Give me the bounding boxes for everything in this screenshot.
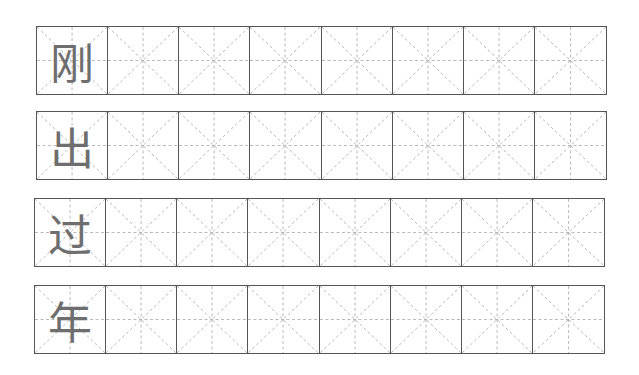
practice-cell	[464, 112, 535, 179]
model-character: 过	[35, 199, 105, 266]
practice-row: 年	[34, 285, 605, 354]
mi-grid-guides	[533, 286, 604, 353]
practice-cell	[391, 199, 462, 266]
practice-row: 刚	[36, 26, 607, 95]
mi-grid-guides	[108, 27, 178, 94]
mi-grid-guides	[535, 112, 606, 179]
practice-cell	[533, 286, 604, 353]
practice-cell	[535, 112, 606, 179]
mi-grid-guides	[179, 27, 249, 94]
model-character: 出	[37, 112, 107, 179]
model-character-cell: 刚	[37, 27, 108, 94]
practice-row: 出	[36, 111, 607, 180]
practice-cell	[464, 27, 535, 94]
practice-cell	[177, 286, 248, 353]
mi-grid-guides	[248, 199, 318, 266]
mi-grid-guides	[322, 27, 392, 94]
practice-cell	[320, 199, 391, 266]
mi-grid-guides	[106, 286, 176, 353]
practice-cell	[108, 112, 179, 179]
mi-grid-guides	[248, 286, 318, 353]
mi-grid-guides	[320, 286, 390, 353]
practice-cell	[462, 199, 533, 266]
practice-cell	[179, 27, 250, 94]
practice-cell	[322, 112, 393, 179]
mi-grid-guides	[464, 112, 534, 179]
practice-cell	[393, 112, 464, 179]
practice-cell	[250, 112, 321, 179]
mi-grid-guides	[322, 112, 392, 179]
mi-grid-guides	[179, 112, 249, 179]
mi-grid-guides	[462, 199, 532, 266]
mi-grid-guides	[320, 199, 390, 266]
practice-cell	[106, 286, 177, 353]
practice-cell	[535, 27, 606, 94]
mi-grid-guides	[393, 27, 463, 94]
model-character-cell: 过	[35, 199, 106, 266]
mi-grid-guides	[535, 27, 606, 94]
mi-grid-guides	[108, 112, 178, 179]
practice-cell	[462, 286, 533, 353]
practice-cell	[179, 112, 250, 179]
practice-cell	[248, 199, 319, 266]
practice-cell	[177, 199, 248, 266]
model-character: 年	[35, 286, 105, 353]
practice-cell	[391, 286, 462, 353]
mi-grid-guides	[393, 112, 463, 179]
mi-grid-guides	[250, 112, 320, 179]
practice-row: 过	[34, 198, 605, 267]
mi-grid-guides	[391, 286, 461, 353]
practice-cell	[248, 286, 319, 353]
mi-grid-guides	[462, 286, 532, 353]
practice-cell	[393, 27, 464, 94]
mi-grid-guides	[391, 199, 461, 266]
practice-cell	[320, 286, 391, 353]
practice-cell	[108, 27, 179, 94]
model-character-cell: 年	[35, 286, 106, 353]
mi-grid-guides	[250, 27, 320, 94]
practice-cell	[106, 199, 177, 266]
mi-grid-guides	[177, 199, 247, 266]
mi-grid-guides	[106, 199, 176, 266]
practice-cell	[533, 199, 604, 266]
model-character-cell: 出	[37, 112, 108, 179]
practice-cell	[322, 27, 393, 94]
mi-grid-guides	[177, 286, 247, 353]
mi-grid-guides	[464, 27, 534, 94]
practice-cell	[250, 27, 321, 94]
model-character: 刚	[37, 27, 107, 94]
mi-grid-guides	[533, 199, 604, 266]
